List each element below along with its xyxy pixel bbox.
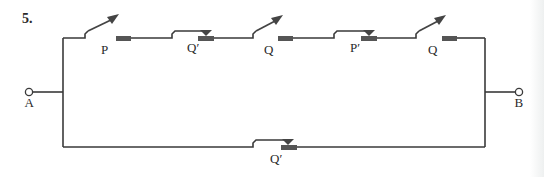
switch-p: P [63,14,131,57]
wire-segment [214,31,256,38]
wire-segment [63,140,288,147]
contact-bar [116,36,131,41]
top-branch: P Q′ Q P′ [63,14,485,57]
switch-p-prime: P′ [293,30,377,55]
wire-segment [131,31,206,38]
circuit-svg: 5. A B P Q′ [0,0,544,177]
arrow-head-icon [434,15,446,25]
switch-label: P′ [350,40,360,55]
switch-label: Q [264,42,274,57]
contact-bar [442,36,457,41]
wire-segment [377,31,419,38]
switch-q-prime-bottom: Q′ [270,139,297,166]
arrow-head-icon [271,15,283,25]
contact-bar [278,36,293,41]
switch-lever [88,19,113,31]
closed-contact-triangle-icon [363,30,375,36]
closed-contact-triangle-icon [282,139,294,145]
contact-bar [361,36,377,41]
switching-circuit-diagram: 5. A B P Q′ [0,0,544,177]
closed-contact-triangle-icon [200,30,212,36]
arrow-head-icon [107,14,119,24]
switch-q-2: Q [377,15,485,57]
contact-bar [281,145,297,150]
terminal-b-label: B [515,95,524,110]
switch-q-prime: Q′ [131,30,214,55]
switch-label: Q [428,42,438,57]
terminal-a-label: A [25,95,35,110]
wire-segment [293,31,369,38]
bottom-branch: Q′ [63,139,485,166]
switch-label: P [101,42,108,57]
switch-q-1: Q [214,15,293,57]
switch-label: Q′ [187,40,199,55]
switch-label: Q′ [270,151,282,166]
wire-segment [63,31,88,38]
contact-bar [198,36,214,41]
problem-number: 5. [22,11,33,26]
page-edge-shading [530,0,544,177]
